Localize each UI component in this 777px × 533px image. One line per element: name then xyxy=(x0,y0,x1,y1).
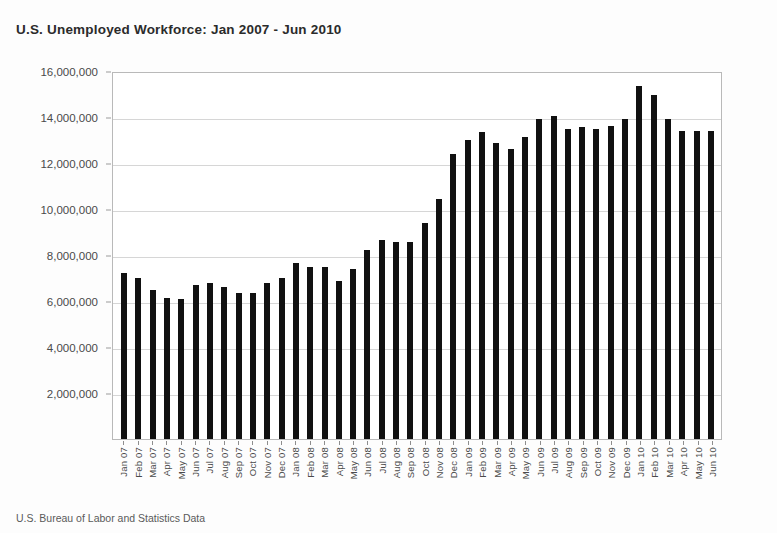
bar-slot xyxy=(389,73,403,439)
x-axis-slot: Jul 09 xyxy=(547,441,561,505)
x-axis-tick-label: May 09 xyxy=(520,447,531,479)
x-axis-slot: Jun 08 xyxy=(360,441,374,505)
x-axis-tick-label: Jun 10 xyxy=(706,447,717,477)
x-axis-tick-label: May 07 xyxy=(175,447,186,479)
bar xyxy=(536,119,542,439)
y-axis-tick-label: 14,000,000 xyxy=(40,112,98,124)
x-axis-tick-mark xyxy=(525,441,526,445)
x-axis-tick-mark xyxy=(367,441,368,445)
x-axis-tick-label: Feb 09 xyxy=(477,447,488,478)
x-axis-tick-label: Sep 08 xyxy=(405,447,416,478)
bar xyxy=(164,298,170,439)
y-axis: 16,000,00014,000,00012,000,00010,000,000… xyxy=(0,72,106,440)
bar xyxy=(379,240,385,439)
bar xyxy=(307,267,313,440)
x-axis-tick-label: Nov 08 xyxy=(434,447,445,478)
x-axis-tick-label: Jan 09 xyxy=(462,447,473,477)
x-axis-tick-mark xyxy=(410,441,411,445)
x-axis-tick-mark xyxy=(166,441,167,445)
bar xyxy=(508,149,514,439)
bar-slot xyxy=(246,73,260,439)
y-axis-tick-mark xyxy=(106,72,111,73)
x-axis-tick-mark xyxy=(339,441,340,445)
x-axis-slot: Oct 09 xyxy=(590,441,604,505)
x-axis-tick-mark xyxy=(267,441,268,445)
bar-slot xyxy=(618,73,632,439)
x-axis-tick-label: Feb 10 xyxy=(649,447,660,478)
x-axis-tick-label: Sep 07 xyxy=(233,447,244,478)
x-axis: Jan 07Feb 07Mar 07Apr 07May 07Jun 07Jul … xyxy=(112,441,722,505)
bar-slot xyxy=(475,73,489,439)
bar xyxy=(221,287,227,439)
x-axis-tick-label: Aug 09 xyxy=(563,447,574,478)
x-axis-tick-mark xyxy=(683,441,684,445)
x-axis-slot: Jun 10 xyxy=(705,441,719,505)
x-axis-tick-mark xyxy=(295,441,296,445)
bar-slot xyxy=(546,73,560,439)
chart-title: U.S. Unemployed Workforce: Jan 2007 - Ju… xyxy=(16,22,342,37)
x-axis-tick-label: Dec 07 xyxy=(276,447,287,478)
x-axis-slot: Jul 08 xyxy=(374,441,388,505)
x-axis-slot: Nov 07 xyxy=(260,441,274,505)
bar xyxy=(178,299,184,439)
x-axis-slot: May 09 xyxy=(518,441,532,505)
bar xyxy=(593,129,599,440)
y-axis-tick-label: 6,000,000 xyxy=(47,296,98,308)
bar-slot xyxy=(274,73,288,439)
bar-slot xyxy=(289,73,303,439)
bar-slot xyxy=(647,73,661,439)
x-axis-tick-mark xyxy=(698,441,699,445)
x-axis-slot: Oct 07 xyxy=(245,441,259,505)
bar xyxy=(264,283,270,439)
x-axis-tick-label: May 08 xyxy=(347,447,358,479)
y-axis-tick-mark xyxy=(106,256,111,257)
bar-slot xyxy=(432,73,446,439)
x-axis-slot: Mar 07 xyxy=(145,441,159,505)
x-axis-tick-mark xyxy=(324,441,325,445)
bar-slot xyxy=(403,73,417,439)
x-axis-tick-mark xyxy=(554,441,555,445)
x-axis-slot: Sep 09 xyxy=(576,441,590,505)
bar-slot xyxy=(675,73,689,439)
x-axis-slot: Nov 09 xyxy=(604,441,618,505)
bar xyxy=(450,154,456,439)
x-axis-tick-label: Oct 07 xyxy=(247,447,258,476)
y-axis-tick-label: 16,000,000 xyxy=(40,66,98,78)
bar xyxy=(479,132,485,439)
x-axis-tick-mark xyxy=(597,441,598,445)
x-axis-tick-mark xyxy=(568,441,569,445)
bar-slot xyxy=(604,73,618,439)
x-axis-slot: Jan 07 xyxy=(116,441,130,505)
x-axis-slot: Jul 07 xyxy=(202,441,216,505)
bar xyxy=(135,278,141,439)
x-axis-tick-label: Apr 07 xyxy=(161,447,172,476)
x-axis-slot: Jun 07 xyxy=(188,441,202,505)
x-axis-tick-label: Jan 08 xyxy=(290,447,301,477)
bar-slot xyxy=(160,73,174,439)
bar-slot xyxy=(518,73,532,439)
x-axis-tick-mark xyxy=(425,441,426,445)
x-axis-tick-label: Jan 10 xyxy=(635,447,646,477)
bar-slot xyxy=(561,73,575,439)
x-axis-slot: Dec 08 xyxy=(446,441,460,505)
bar xyxy=(608,126,614,439)
x-axis-tick-label: Oct 09 xyxy=(592,447,603,476)
x-axis-slot: May 08 xyxy=(346,441,360,505)
bar-slot xyxy=(418,73,432,439)
bar xyxy=(207,283,213,439)
bar-slot xyxy=(575,73,589,439)
x-axis-tick-mark xyxy=(181,441,182,445)
x-axis-tick-mark xyxy=(382,441,383,445)
x-axis-slot: Mar 10 xyxy=(662,441,676,505)
x-axis-tick-mark xyxy=(195,441,196,445)
x-axis-tick-mark xyxy=(224,441,225,445)
bar-slot xyxy=(174,73,188,439)
x-axis-slot: Feb 07 xyxy=(130,441,144,505)
x-axis-tick-label: Mar 08 xyxy=(319,447,330,478)
x-axis-slot: Apr 08 xyxy=(331,441,345,505)
bar-slot xyxy=(661,73,675,439)
bar-slot xyxy=(632,73,646,439)
bar-slot xyxy=(232,73,246,439)
x-axis-tick-label: Apr 08 xyxy=(333,447,344,476)
x-axis-slot: Oct 08 xyxy=(418,441,432,505)
